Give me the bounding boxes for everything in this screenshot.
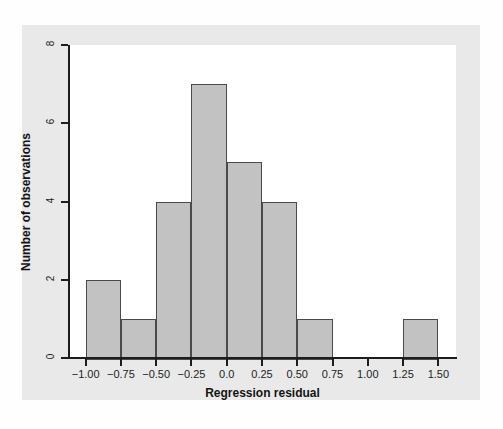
x-axis-tick (402, 359, 404, 366)
x-axis-tick (190, 359, 192, 366)
y-axis-tick-label-container: 2 (41, 272, 59, 288)
x-axis-tick (367, 359, 369, 366)
y-axis-tick (61, 201, 68, 203)
y-axis-tick-label: 8 (45, 24, 56, 64)
y-axis-tick-label: 6 (45, 102, 56, 142)
histogram-bar (191, 84, 226, 360)
y-axis-title-container: Number of observations (19, 112, 35, 292)
histogram-bar (297, 319, 332, 360)
x-axis-tick (296, 359, 298, 366)
y-axis-tick-label-container: 8 (41, 37, 59, 53)
x-axis-tick (332, 359, 334, 366)
x-axis-tick (155, 359, 157, 366)
x-axis-tick-label: 1.50 (408, 368, 468, 380)
histogram-bar (262, 202, 297, 361)
y-axis-tick (61, 122, 68, 124)
y-axis-tick-label-container: 6 (41, 115, 59, 131)
x-axis-tick (85, 359, 87, 366)
x-axis-tick (120, 359, 122, 366)
histogram-bar (86, 280, 121, 360)
histogram-figure: 02468 −1.00−0.75−0.50−0.250.00.250.500.7… (0, 0, 503, 429)
histogram-bar (227, 162, 262, 360)
y-axis-tick-label-container: 0 (41, 350, 59, 366)
y-axis-tick-label: 0 (45, 337, 56, 377)
y-axis-title: Number of observations (19, 112, 33, 292)
x-axis-tick (261, 359, 263, 366)
histogram-bar (156, 202, 191, 361)
y-axis-tick (61, 279, 68, 281)
x-axis-tick (437, 359, 439, 366)
y-axis-tick-label: 4 (45, 180, 56, 220)
x-axis-tick (226, 359, 228, 366)
x-axis-title: Regression residual (68, 386, 457, 400)
y-axis-tick-label: 2 (45, 258, 56, 298)
y-axis-tick (61, 44, 68, 46)
histogram-bar (121, 319, 156, 360)
histogram-bar (403, 319, 438, 360)
y-axis-tick (61, 357, 68, 359)
y-axis-line (68, 45, 70, 358)
y-axis-tick-label-container: 4 (41, 194, 59, 210)
